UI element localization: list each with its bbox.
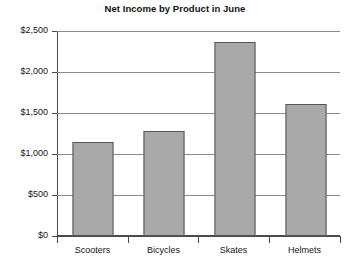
x-axis-line: [57, 236, 341, 237]
bar-helmets[interactable]: [285, 104, 326, 236]
y-axis-label-2000: $2,000: [0, 66, 48, 76]
x-axis-label-bicycles: Bicycles: [128, 245, 199, 255]
y-axis-label-500: $500: [0, 189, 48, 199]
bar-skates[interactable]: [214, 42, 255, 236]
bar-band-helmets: [270, 31, 341, 236]
bar-bicycles[interactable]: [143, 131, 184, 236]
bar-band-bicycles: [128, 31, 199, 236]
plot-area: [57, 31, 340, 236]
x-axis-tick-2: [198, 237, 199, 243]
bar-band-scooters: [57, 31, 128, 236]
y-axis-label-2500: $2,500: [0, 25, 48, 35]
x-axis-tick-1: [128, 237, 129, 243]
y-axis-label-1500: $1,500: [0, 107, 48, 117]
y-axis-label-0: $0: [0, 230, 48, 240]
bar-chart: Net Income by Product in June $2,500 $2,…: [0, 0, 350, 272]
x-axis-label-scooters: Scooters: [57, 245, 128, 255]
x-axis-tick-3: [269, 237, 270, 243]
y-axis-label-1000: $1,000: [0, 148, 48, 158]
x-axis-label-helmets: Helmets: [269, 245, 340, 255]
bar-band-skates: [199, 31, 270, 236]
bar-scooters[interactable]: [72, 142, 113, 236]
chart-title: Net Income by Product in June: [0, 3, 350, 14]
x-axis-tick-0: [57, 237, 58, 243]
x-axis-tick-4: [340, 237, 341, 243]
x-axis-label-skates: Skates: [198, 245, 269, 255]
